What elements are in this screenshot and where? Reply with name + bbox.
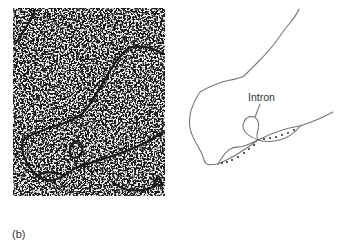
intron-label: Intron [248,91,275,103]
hybrid-upper-left [218,140,258,164]
panel-label: (b) [12,228,25,240]
dna-strand-top [189,9,299,165]
intron-pointer [255,104,260,117]
dna-strand-right [300,112,333,126]
schematic-diagram: Intron [0,0,348,243]
rna-dots [221,129,295,164]
hybrid-lower-left [218,140,258,164]
intron-loop [243,116,259,140]
